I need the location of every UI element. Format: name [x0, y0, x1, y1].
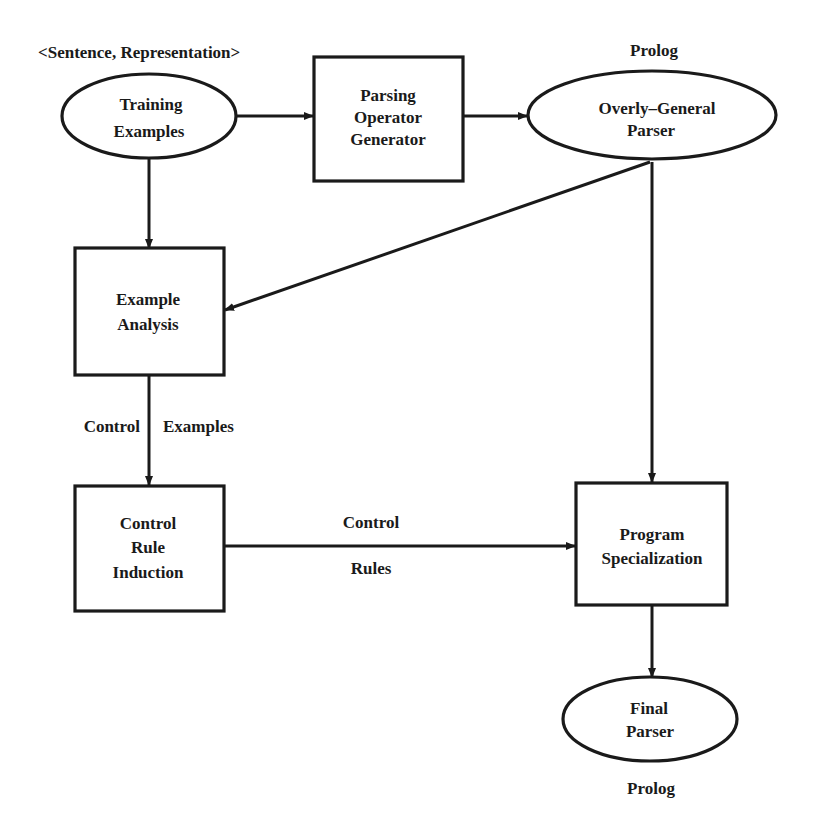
overly-general-parser-label-2: Parser [627, 121, 676, 140]
training-examples-ellipse [62, 74, 236, 158]
edge-label-examples: Examples [163, 417, 234, 436]
training-examples-label-2: Examples [114, 122, 185, 141]
final-parser-label-1: Final [630, 699, 668, 718]
node-final-parser: Final Parser Prolog [563, 677, 737, 798]
overly-general-parser-label-1: Overly–General [598, 99, 715, 118]
overly-general-parser-annotation: Prolog [630, 41, 678, 60]
control-rule-induction-label-2: Rule [131, 538, 165, 557]
example-analysis-box [75, 248, 224, 375]
node-parsing-operator-generator: Parsing Operator Generator [314, 57, 463, 181]
parsing-operator-generator-label-1: Parsing [360, 86, 416, 105]
example-analysis-label-1: Example [116, 290, 181, 309]
final-parser-annotation: Prolog [627, 779, 675, 798]
node-training-examples: <Sentence, Representation> Training Exam… [38, 43, 240, 158]
final-parser-ellipse [563, 677, 737, 761]
example-analysis-label-2: Analysis [117, 315, 179, 334]
program-specialization-box [576, 483, 727, 605]
node-program-specialization: Program Specialization [576, 483, 727, 605]
training-examples-label-1: Training [120, 95, 183, 114]
control-rule-induction-label-3: Induction [113, 563, 184, 582]
edge-label-control-top: Control [343, 513, 400, 532]
program-specialization-label-1: Program [620, 525, 685, 544]
parsing-operator-generator-label-2: Operator [354, 108, 422, 127]
node-control-rule-induction: Control Rule Induction [75, 486, 224, 611]
program-specialization-label-2: Specialization [601, 549, 703, 568]
edge-overly-general-to-analysis [225, 162, 650, 310]
parsing-operator-generator-label-3: Generator [350, 130, 426, 149]
final-parser-label-2: Parser [626, 722, 675, 741]
edge-label-rules-bottom: Rules [351, 559, 392, 578]
training-examples-annotation: <Sentence, Representation> [38, 43, 240, 62]
edge-label-control: Control [84, 417, 141, 436]
flow-diagram: <Sentence, Representation> Training Exam… [0, 0, 817, 839]
node-example-analysis: Example Analysis [75, 248, 224, 375]
node-overly-general-parser: Prolog Overly–General Parser [528, 41, 776, 159]
control-rule-induction-label-1: Control [120, 514, 177, 533]
